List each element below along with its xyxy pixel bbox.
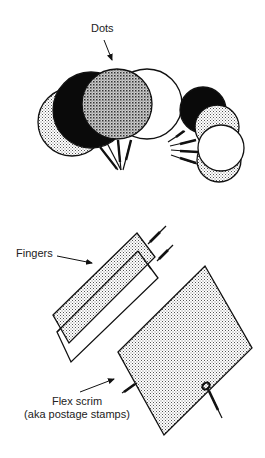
dot-crosshatch [82,69,152,139]
fingers-arrow [57,256,92,263]
dots-group-left [38,69,182,156]
dot-white-right [198,125,244,171]
probes-right [168,131,198,164]
flex-scrim-arrow [80,379,114,392]
fingers-label: Fingers [16,247,53,260]
dots-arrow [104,40,112,60]
scrim-pin-left [122,383,137,393]
flex-scrim-label: Flex scrim (aka postage stamps) [22,395,132,421]
dots-group-right [180,87,244,182]
flex-scrim-label-line1: Flex scrim [22,395,132,408]
diagram-canvas [0,0,265,458]
dots-label: Dots [91,22,114,35]
flex-scrim-label-line2: (aka postage stamps) [22,408,132,421]
